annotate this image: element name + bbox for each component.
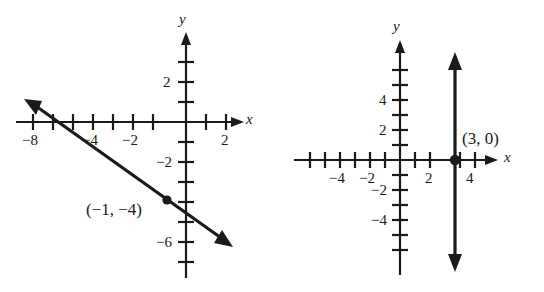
left-x-tick-label-neg2: −2 (122, 133, 138, 148)
left-y-tick-label-neg6: −6 (156, 235, 172, 250)
left-y-tick-label-2: 2 (163, 75, 171, 90)
right-y-axis (392, 40, 408, 275)
right-plotted-point (450, 155, 460, 165)
left-x-axis-label: x (246, 112, 253, 127)
left-y-tick-label-neg2: −2 (156, 155, 172, 170)
right-coordinate-graph: x y −4 −2 2 4 4 2 −2 −4 (3, 0) (272, 0, 544, 292)
left-y-axis (178, 32, 194, 278)
right-y-tick-label-neg2: −2 (371, 183, 387, 198)
right-x-tick-label-4: 4 (466, 171, 474, 186)
left-coordinate-graph: x y −8 −4 −2 2 2 −2 −6 (−1, −4) (0, 0, 272, 292)
right-graph-svg (272, 0, 544, 292)
right-y-tick-label-2: 2 (379, 123, 387, 138)
right-y-tick-label-4: 4 (379, 93, 387, 108)
right-x-tick-label-2: 2 (425, 171, 433, 186)
right-x-tick-label-neg4: −4 (329, 171, 345, 186)
right-x-axis (294, 152, 498, 168)
right-x-axis-label: x (504, 150, 511, 165)
right-point-annotation: (3, 0) (462, 130, 499, 147)
left-x-tick-label-neg8: −8 (22, 133, 38, 148)
left-x-tick-label-neg4: −4 (82, 133, 98, 148)
left-point-annotation: (−1, −4) (86, 201, 142, 218)
left-x-tick-label-2: 2 (221, 133, 229, 148)
figure-canvas: x y −8 −4 −2 2 2 −2 −6 (−1, −4) (0, 0, 544, 292)
left-plotted-point (162, 195, 171, 204)
right-y-tick-label-neg4: −4 (371, 213, 387, 228)
right-y-axis-label: y (393, 19, 400, 34)
left-y-axis-label: y (179, 12, 186, 27)
